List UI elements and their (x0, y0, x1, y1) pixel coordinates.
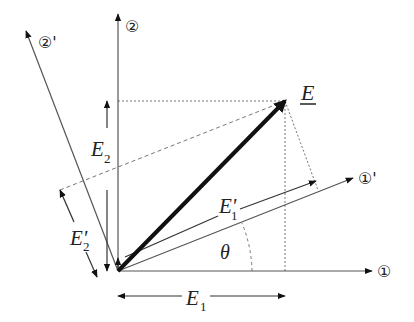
svg-text:2: 2 (83, 239, 90, 254)
vector-diagram: ① ② ①' ②' E E 2 E 1 E' 1 E' 2 θ (0, 0, 414, 322)
e1-label: E 1 (185, 286, 207, 314)
svg-text:E: E (90, 137, 104, 161)
axis-1-rotated (118, 178, 353, 271)
construction-lines (60, 101, 318, 271)
vector-e-label: E (300, 80, 316, 105)
e1-prime-label: E' 1 (218, 194, 238, 223)
svg-text:E: E (185, 286, 199, 310)
axis-1-rotated-label: ①' (358, 169, 377, 188)
svg-text:1: 1 (200, 299, 207, 314)
theta-arc (242, 223, 252, 271)
theta-label: θ (220, 241, 230, 263)
svg-text:2: 2 (104, 151, 111, 166)
e1-prime-arrow-upper (240, 181, 316, 209)
vector-e (118, 101, 285, 271)
e2-prime-label: E' 2 (69, 226, 90, 254)
axis-2-rotated-label: ②' (38, 33, 57, 52)
svg-text:1: 1 (231, 208, 238, 223)
e2-label: E 2 (90, 137, 111, 166)
svg-text:E: E (300, 80, 315, 105)
e2-prime-arrow-down (86, 252, 97, 277)
axis-1-label: ① (377, 262, 391, 281)
e2-prime-arrow-up (60, 190, 74, 222)
axis-2-label: ② (125, 17, 139, 36)
e1-prime-projection-line (285, 101, 318, 190)
